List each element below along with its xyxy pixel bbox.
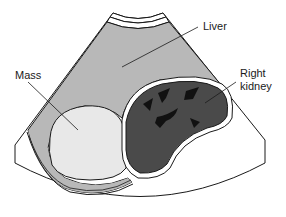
label-mass: Mass (15, 69, 41, 82)
ultrasound-diagram (0, 0, 286, 217)
mass-lesion (49, 106, 127, 180)
label-right-kidney-line1: Right (240, 67, 266, 80)
label-liver: Liver (203, 20, 227, 33)
label-right-kidney-line2: kidney (240, 80, 272, 93)
